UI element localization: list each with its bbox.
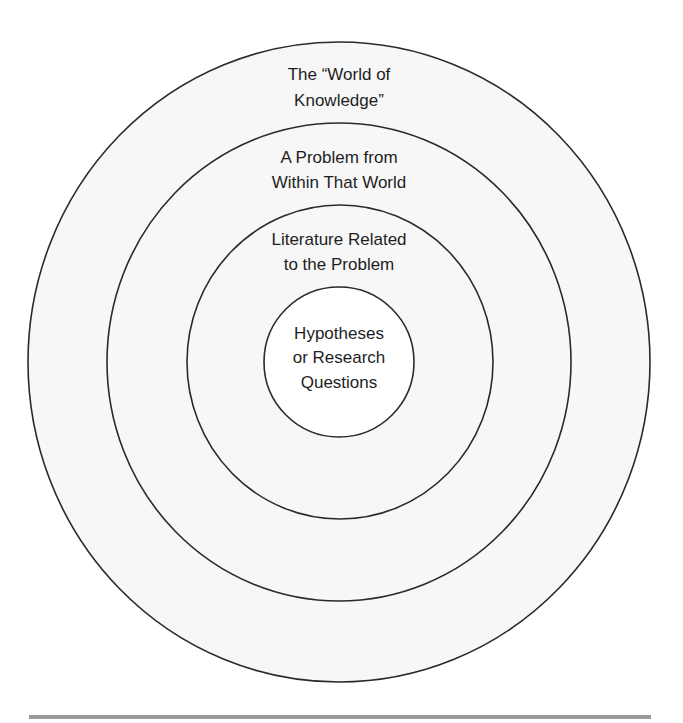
bottom-rule-divider (29, 715, 651, 719)
label-hypotheses-line-3: Questions (301, 373, 378, 392)
label-hypotheses-line-1: Hypotheses (294, 324, 384, 343)
label-hypotheses-line-2: or Research (293, 348, 386, 367)
label-problem-line-1: A Problem from (280, 148, 397, 167)
concentric-circles-diagram: The “World of Knowledge” A Problem from … (0, 0, 683, 723)
label-problem-line-2: Within That World (272, 173, 406, 192)
label-literature-line-1: Literature Related (271, 230, 406, 249)
label-literature-line-2: to the Problem (284, 255, 395, 274)
label-world-line-2: Knowledge” (294, 91, 384, 110)
label-world-line-1: The “World of (288, 65, 391, 84)
